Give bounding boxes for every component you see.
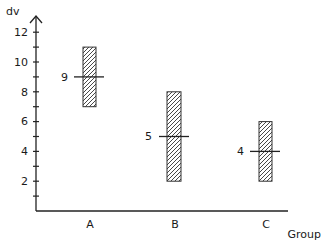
- y-axis-label: dv: [6, 5, 20, 18]
- category-label-c: C: [262, 218, 270, 231]
- ytick-8: 8: [21, 86, 28, 99]
- ytick-12: 12: [14, 26, 28, 39]
- median-label-a: 9: [61, 71, 68, 84]
- category-label-b: B: [171, 218, 179, 231]
- ytick-6: 6: [21, 115, 28, 128]
- ytick-2: 2: [21, 175, 28, 188]
- range-chart: 2 4 6 8 10 12 dv 9 5 4 A B C Group: [0, 0, 323, 244]
- category-label-a: A: [86, 218, 94, 231]
- range-bar-c: 4: [237, 122, 280, 182]
- median-label-b: 5: [145, 130, 152, 143]
- ytick-4: 4: [21, 145, 28, 158]
- y-tick-labels: 2 4 6 8 10 12: [14, 26, 28, 188]
- median-label-c: 4: [237, 145, 244, 158]
- ytick-10: 10: [14, 56, 28, 69]
- range-bar-b: 5: [145, 92, 189, 181]
- range-bar-a: 9: [61, 47, 104, 107]
- x-axis-label: Group: [288, 228, 322, 241]
